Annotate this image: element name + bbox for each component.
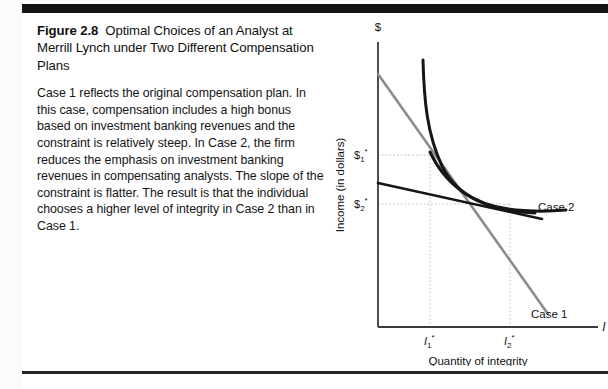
x-tick-label-i-1: I1*: [424, 333, 435, 350]
figure-caption: Figure 2.8Optimal Choices of an Analyst …: [37, 22, 325, 235]
x-tick-1-sub: 1: [427, 341, 432, 350]
y-tick-2-sup: *: [365, 196, 368, 205]
indifference-curve-1: [423, 60, 535, 213]
annotation-case-1: Case 1: [531, 308, 567, 320]
chart-axes: [378, 42, 598, 327]
guide-lines: [378, 155, 510, 327]
y-axis-title: Income (in dollars): [334, 138, 346, 233]
figure-bottom-rule: [22, 371, 608, 374]
svg-text:$1*: $1*: [354, 147, 368, 164]
x-tick-2-sub: 2: [507, 341, 512, 350]
figure-top-rule: [22, 4, 608, 13]
svg-text:I1*: I1*: [424, 333, 435, 350]
figure-body-text: Case 1 reflects the original compensatio…: [37, 85, 325, 234]
x-tick-label-i-2: I2*: [504, 333, 515, 350]
y-tick-1-sup: *: [365, 147, 368, 156]
chart-svg: $ I $1* $2* I1* I2* Case 2 Case 1 Income…: [330, 14, 608, 366]
chart-panel: $ I $1* $2* I1* I2* Case 2 Case 1 Income…: [330, 14, 608, 366]
series-line-case-1: [378, 74, 548, 314]
x-axis-title: Quantity of integrity: [428, 355, 527, 366]
svg-text:$2*: $2*: [354, 196, 368, 213]
figure-title: Figure 2.8Optimal Choices of an Analyst …: [37, 22, 325, 74]
page-left-margin: [0, 0, 22, 389]
y-tick-1-sub: 1: [360, 155, 365, 164]
y-tick-2-sub: 2: [360, 204, 365, 213]
y-tick-label-dollar-2: $2*: [354, 196, 368, 213]
x-tick-2-sup: *: [512, 333, 515, 342]
svg-text:I2*: I2*: [504, 333, 515, 350]
annotation-case-2: Case 2: [538, 201, 574, 213]
x-tick-1-sup: *: [432, 333, 435, 342]
y-axis-tip-label: $: [375, 21, 382, 33]
x-axis-tip-label: I: [602, 320, 606, 334]
figure-page: Figure 2.8Optimal Choices of an Analyst …: [0, 0, 608, 389]
figure-number: Figure 2.8: [37, 23, 98, 38]
y-tick-label-dollar-1: $1*: [354, 147, 368, 164]
